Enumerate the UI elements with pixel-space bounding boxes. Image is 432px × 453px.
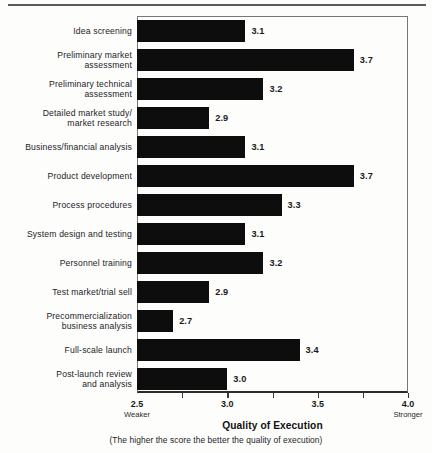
category-label: Idea screening	[0, 25, 132, 35]
bar	[137, 194, 282, 216]
bar-with-value: 3.2	[137, 252, 283, 274]
bar-row: Full-scale launch3.4	[0, 335, 432, 364]
bar	[137, 20, 245, 42]
x-axis-tick	[182, 393, 183, 398]
bar-value-label: 3.7	[360, 55, 373, 65]
bar	[137, 223, 245, 245]
x-axis-tick	[408, 393, 409, 398]
category-label: Test market/trial sell	[0, 286, 132, 296]
x-axis-tick-label: 3.5	[311, 399, 324, 409]
bar-row: Detailed market study/ market research2.…	[0, 103, 432, 132]
bar-row: Process procedures3.3	[0, 190, 432, 219]
x-axis-note: (The higher the score the better the qua…	[0, 435, 432, 445]
bar-value-label: 2.9	[215, 287, 228, 297]
bar-rows-container: Idea screening3.1Preliminary market asse…	[0, 16, 432, 393]
bar-with-value: 2.9	[137, 281, 228, 303]
bar-row: System design and testing3.1	[0, 219, 432, 248]
bar-row: Precommercialization business analysis2.…	[0, 306, 432, 335]
bar-value-label: 3.4	[306, 345, 319, 355]
x-axis-low-label: Weaker	[124, 410, 150, 419]
bar-with-value: 2.9	[137, 107, 228, 129]
bar-value-label: 3.2	[269, 84, 282, 94]
bar	[137, 310, 173, 332]
bar-value-label: 2.9	[215, 113, 228, 123]
bar-with-value: 3.4	[137, 339, 319, 361]
bar-row: Preliminary technical assessment3.2	[0, 74, 432, 103]
bar	[137, 49, 354, 71]
x-axis-tick	[227, 393, 228, 398]
bar	[137, 107, 209, 129]
bar-row: Product development3.7	[0, 161, 432, 190]
bar-with-value: 3.1	[137, 136, 264, 158]
bar-chart-figure: Idea screening3.1Preliminary market asse…	[0, 0, 432, 453]
x-axis-tick-label: 3.0	[221, 399, 234, 409]
bar-value-label: 3.1	[251, 26, 264, 36]
bar	[137, 281, 209, 303]
x-axis-tick	[273, 393, 274, 398]
bar-with-value: 3.3	[137, 194, 301, 216]
x-axis-tick-label: 4.0	[402, 399, 415, 409]
bar	[137, 252, 263, 274]
bar-value-label: 3.0	[233, 374, 246, 384]
category-label: Precommercialization business analysis	[0, 310, 132, 331]
category-label: System design and testing	[0, 228, 132, 238]
bar-with-value: 3.0	[137, 368, 246, 390]
bar-value-label: 3.1	[251, 229, 264, 239]
category-label: Post-launch review and analysis	[0, 368, 132, 389]
bar-with-value: 2.7	[137, 310, 192, 332]
bar	[137, 78, 263, 100]
bar-row: Personnel training3.2	[0, 248, 432, 277]
bar-with-value: 3.2	[137, 78, 283, 100]
category-label: Preliminary market assessment	[0, 49, 132, 70]
header-rule	[8, 4, 426, 6]
bar	[137, 339, 300, 361]
bar-value-label: 3.1	[251, 142, 264, 152]
bar-with-value: 3.7	[137, 165, 373, 187]
category-label: Detailed market study/ market research	[0, 107, 132, 128]
bar	[137, 165, 354, 187]
bar	[137, 368, 227, 390]
bar-value-label: 2.7	[179, 316, 192, 326]
bar-row: Post-launch review and analysis3.0	[0, 364, 432, 393]
bar-with-value: 3.1	[137, 223, 264, 245]
category-label: Full-scale launch	[0, 344, 132, 354]
bar-with-value: 3.1	[137, 20, 264, 42]
category-label: Process procedures	[0, 199, 132, 209]
x-axis-title: Quality of Execution	[137, 420, 408, 431]
bar-value-label: 3.7	[360, 171, 373, 181]
category-label: Business/financial analysis	[0, 141, 132, 151]
bar-value-label: 3.2	[269, 258, 282, 268]
bar-row: Test market/trial sell2.9	[0, 277, 432, 306]
bar	[137, 136, 245, 158]
bar-row: Preliminary market assessment3.7	[0, 45, 432, 74]
category-label: Preliminary technical assessment	[0, 78, 132, 99]
x-axis-tick-label: 2.5	[131, 399, 144, 409]
category-label: Personnel training	[0, 257, 132, 267]
category-label: Product development	[0, 170, 132, 180]
bar-row: Idea screening3.1	[0, 16, 432, 45]
x-axis-tick	[318, 393, 319, 398]
x-axis-tick	[363, 393, 364, 398]
bar-with-value: 3.7	[137, 49, 373, 71]
bar-value-label: 3.3	[288, 200, 301, 210]
x-axis-high-label: Stronger	[393, 410, 422, 419]
bar-row: Business/financial analysis3.1	[0, 132, 432, 161]
